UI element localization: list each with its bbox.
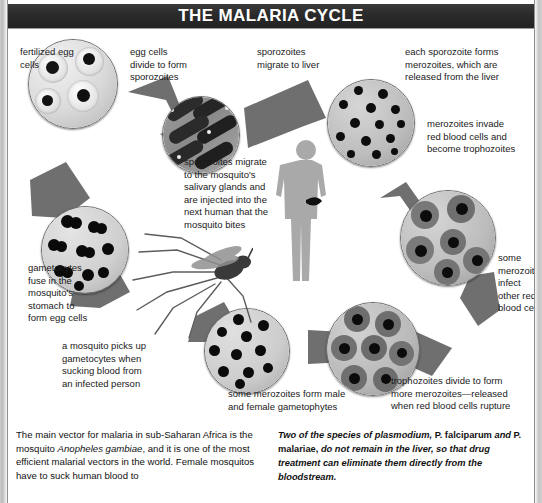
page-right-edge-shadow: [535, 0, 542, 503]
label-gametocytes-fuse: gametocytes fuse in the mosquito's stoma…: [28, 262, 118, 325]
footer-divider: [8, 422, 534, 423]
liver-merozoites-micrograph: [327, 79, 415, 167]
footer-right-paragraph: Two of the species of plasmodium, P. fal…: [278, 428, 528, 484]
diagram-stage: fertilized egg cells egg cells divide to…: [8, 30, 534, 422]
malaria-cycle-infographic: THE MALARIA CYCLE: [0, 0, 542, 503]
label-mosquito-picks-up: a mosquito picks up gametocytes when suc…: [62, 340, 187, 390]
page-left-edge-shadow: [0, 0, 7, 503]
title-bar: THE MALARIA CYCLE: [8, 4, 534, 28]
label-trophozoites-divide: trophozoites divide to form more merozoi…: [391, 375, 534, 413]
label-sporozoites-migrate-salivary: sporozoites migrate to the mosquito's sa…: [184, 156, 299, 232]
label-fertilized-egg-cells: fertilized egg cells: [20, 46, 130, 71]
label-sporozoites-migrate-liver: sporozoites migrate to liver: [257, 46, 367, 71]
footer-left-paragraph: The main vector for malaria in sub-Sahar…: [16, 428, 264, 482]
label-egg-cells-divide: egg cells divide to form sporozoites: [130, 46, 240, 84]
label-some-merozoites-form-male: some merozoites form male and female gam…: [228, 388, 388, 413]
footer-right-part-1: Two of the species of plasmodium,: [278, 430, 432, 440]
footer-right-species-falciparum: P. falciparum: [432, 430, 494, 440]
mosquito-illustration: [103, 226, 253, 346]
footer-left-species-name: Anopheles gambiae: [58, 443, 143, 454]
label-each-sporozoite-forms: each sporozoite forms merozoites, which …: [405, 46, 534, 84]
trophozoites-micrograph: [400, 190, 496, 286]
page-title: THE MALARIA CYCLE: [178, 6, 364, 26]
label-some-merozoites-infect: some merozoites infect other red blood c…: [498, 252, 534, 315]
label-merozoites-invade: merozoites invade red blood cells and be…: [427, 118, 534, 156]
footer-right-part-3: and: [494, 430, 511, 440]
